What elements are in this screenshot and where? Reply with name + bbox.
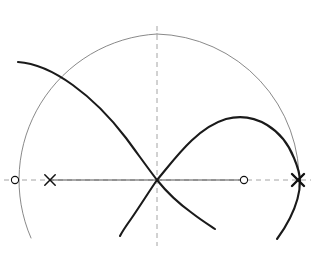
curve-right-lower-tail bbox=[277, 181, 300, 239]
curve-upper-left-branch bbox=[18, 62, 157, 180]
geometry-figure: Cubic curve with a node, its circumscrib… bbox=[0, 0, 315, 254]
circumscribed-circle bbox=[19, 34, 299, 238]
curve-lower-right-branch bbox=[157, 180, 215, 229]
curve-right-loop bbox=[157, 117, 300, 181]
curve-lower-left-branch bbox=[120, 180, 157, 236]
left-circle-point-marker bbox=[11, 176, 18, 183]
right-circle-point-marker bbox=[240, 176, 247, 183]
figure-canvas: Cubic curve with a node, its circumscrib… bbox=[0, 0, 315, 254]
